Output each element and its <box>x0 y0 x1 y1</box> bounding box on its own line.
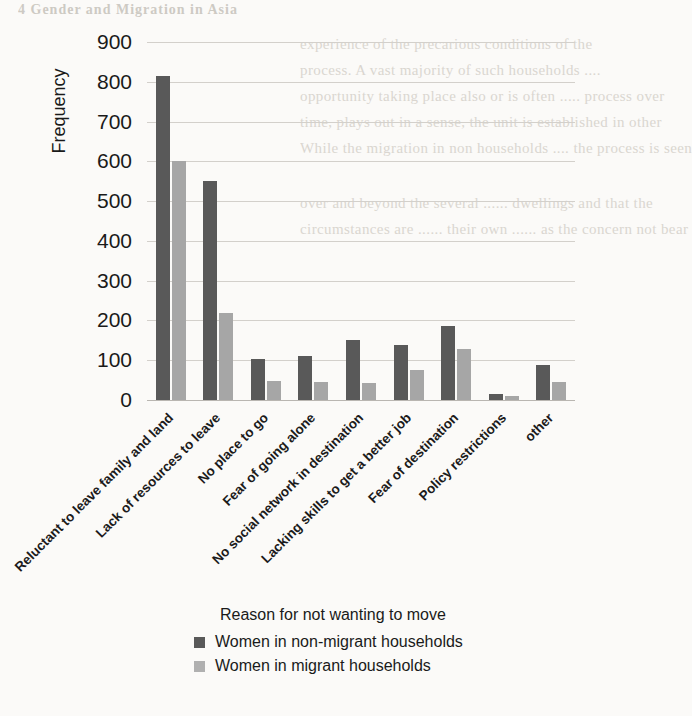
x-axis-baseline <box>147 400 575 401</box>
y-axis-tick-label: 400 <box>97 229 132 253</box>
plot-area <box>147 42 575 400</box>
legend-block: Reason for not wanting to move Women in … <box>194 606 584 681</box>
bar <box>552 382 566 400</box>
y-axis-tick-label: 100 <box>97 348 132 372</box>
bar <box>489 394 503 400</box>
y-axis-title: Frequency <box>49 128 70 154</box>
y-axis-tick-label: 900 <box>97 30 132 54</box>
bar <box>219 313 233 401</box>
bar <box>251 359 265 400</box>
bar-group <box>195 42 243 400</box>
legend-label: Women in migrant households <box>215 657 431 675</box>
bar <box>394 345 408 400</box>
bar-group <box>290 42 338 400</box>
bar <box>536 365 550 400</box>
bar <box>410 370 424 400</box>
bar-group <box>385 42 433 400</box>
bar <box>457 349 471 400</box>
y-axis-tick-label: 700 <box>97 110 132 134</box>
bar-group <box>242 42 290 400</box>
legend-label: Women in non-migrant households <box>215 633 463 651</box>
legend-swatch-icon <box>194 661 205 672</box>
bar-group <box>147 42 195 400</box>
bar <box>362 383 376 400</box>
bar-group <box>480 42 528 400</box>
legend-item: Women in migrant households <box>194 657 584 675</box>
bar-group <box>527 42 575 400</box>
bar <box>156 76 170 400</box>
bar <box>203 181 217 400</box>
bar <box>298 356 312 400</box>
bar <box>314 382 328 400</box>
y-axis-tick-label: 800 <box>97 70 132 94</box>
y-axis-tick-label: 500 <box>97 189 132 213</box>
bar <box>441 326 455 400</box>
bar <box>346 340 360 400</box>
y-axis-tick-label: 300 <box>97 269 132 293</box>
legend: Women in non-migrant householdsWomen in … <box>194 633 584 675</box>
y-axis-tick-labels: 9008007006005004003002001000 <box>88 42 140 400</box>
x-axis-category-labels: Reluctant to leave family and landLack o… <box>0 402 587 602</box>
y-axis-tick-label: 600 <box>97 149 132 173</box>
bar <box>172 161 186 400</box>
legend-swatch-icon <box>194 637 205 648</box>
y-axis-tick-label: 200 <box>97 308 132 332</box>
legend-item: Women in non-migrant households <box>194 633 584 651</box>
x-axis-title: Reason for not wanting to move <box>220 606 584 624</box>
bar-group <box>432 42 480 400</box>
bar <box>267 381 281 400</box>
bar <box>505 396 519 400</box>
bar-group <box>337 42 385 400</box>
